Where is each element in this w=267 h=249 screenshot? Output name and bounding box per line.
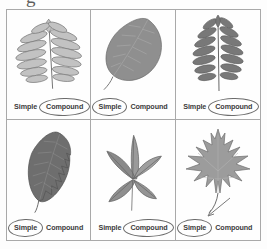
answer-row-5[interactable]: Simple Compound: [91, 218, 174, 240]
option-simple-4[interactable]: Simple: [11, 222, 40, 233]
simple-serrated-elliptic-leaf-icon: [7, 123, 90, 215]
option-simple-3[interactable]: Simple: [180, 101, 209, 112]
answer-row-4[interactable]: Simple Compound: [7, 218, 90, 240]
worksheet-cell-3[interactable]: Simple Compound: [176, 10, 260, 120]
leaf-image-6: [176, 120, 260, 218]
worksheet-grid: Simple Compound: [6, 9, 261, 241]
option-compound-5[interactable]: Compound: [127, 222, 170, 233]
clipped-heading-glyph: g: [26, 0, 36, 6]
simple-ovate-leaf-icon: [91, 11, 174, 97]
pinnately-compound-sumac-leaf-icon: [7, 11, 90, 97]
leaf-image-1: [7, 10, 90, 97]
palmately-compound-creeper-leaf-icon: [91, 123, 174, 215]
worksheet-cell-4[interactable]: Simple Compound: [7, 120, 91, 240]
option-compound-1[interactable]: Compound: [43, 101, 86, 112]
pinnately-compound-ash-leaf-icon: [176, 11, 260, 97]
worksheet-cell-1[interactable]: Simple Compound: [7, 10, 91, 120]
option-compound-2[interactable]: Compound: [127, 101, 170, 112]
option-compound-4[interactable]: Compound: [43, 222, 86, 233]
leaf-image-5: [91, 120, 174, 218]
option-simple-5[interactable]: Simple: [95, 222, 124, 233]
leaf-image-4: [7, 120, 90, 218]
answer-row-6[interactable]: Simple Compound: [176, 218, 260, 240]
leaf-image-3: [176, 10, 260, 97]
simple-lobed-maple-leaf-icon: [176, 123, 260, 215]
answer-row-2[interactable]: Simple Compound: [91, 97, 174, 119]
option-compound-3[interactable]: Compound: [212, 101, 255, 112]
answer-row-3[interactable]: Simple Compound: [176, 97, 260, 119]
worksheet-cell-2[interactable]: Simple Compound: [91, 10, 175, 120]
option-simple-6[interactable]: Simple: [180, 222, 209, 233]
leaf-image-2: [91, 10, 174, 97]
option-simple-2[interactable]: Simple: [95, 101, 124, 112]
option-compound-6[interactable]: Compound: [212, 222, 255, 233]
worksheet-cell-5[interactable]: Simple Compound: [91, 120, 175, 240]
answer-row-1[interactable]: Simple Compound: [7, 97, 90, 119]
leaf-classification-worksheet: g: [0, 0, 267, 249]
worksheet-cell-6[interactable]: Simple Compound: [176, 120, 260, 240]
option-simple-1[interactable]: Simple: [11, 101, 40, 112]
